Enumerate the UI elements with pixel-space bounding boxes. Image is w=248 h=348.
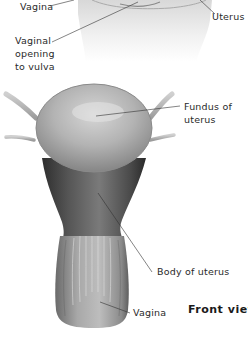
label-vagina-front: Vagina xyxy=(133,306,166,319)
label-vaginal-opening-1: Vaginal xyxy=(15,34,51,47)
label-body-of-uterus: Body of uterus xyxy=(157,265,229,278)
label-vagina-top: Vagina xyxy=(20,0,53,13)
view-title: Front view xyxy=(188,303,248,316)
label-fundus-1: Fundus of xyxy=(184,100,232,113)
label-fundus-2: uterus xyxy=(184,113,216,126)
label-vaginal-opening-2: opening xyxy=(15,47,55,60)
label-uterus: Uterus xyxy=(212,10,245,23)
fundus-shape xyxy=(36,84,152,172)
anatomy-figure: Vagina Uterus Vaginal opening to vulva F… xyxy=(0,0,248,348)
side-view-fragment xyxy=(78,0,212,62)
vagina-shape xyxy=(55,236,129,328)
label-vaginal-opening-3: to vulva xyxy=(15,60,55,73)
